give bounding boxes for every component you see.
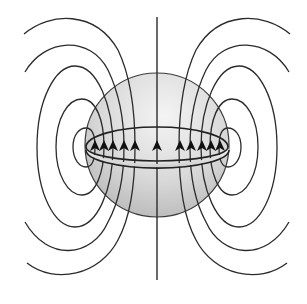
- field-lines-diagram: [0, 0, 307, 304]
